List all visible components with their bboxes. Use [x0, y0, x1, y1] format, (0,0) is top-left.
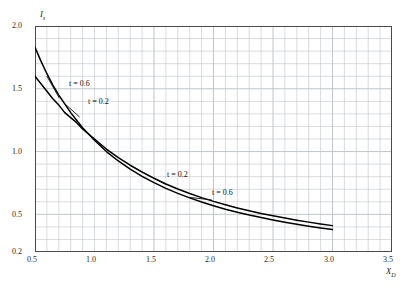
y-axis-title-sub: s [43, 15, 45, 21]
y-tick-2: 1.0 [12, 147, 22, 156]
x-tick-0: 0.5 [27, 255, 37, 264]
curve-t-0-2 [35, 76, 333, 225]
chart-figure: 0.51.01.52.02.53.03.5 2.01.51.00.50.2 Is… [0, 0, 419, 289]
annotation-t02-lower: t = 0.2 [167, 170, 188, 179]
plot-area [35, 26, 392, 252]
x-axis-title: XD [386, 266, 396, 278]
curve-t-0-6 [35, 47, 333, 229]
x-tick-5: 3.0 [324, 255, 334, 264]
x-tick-1: 1.0 [86, 255, 96, 264]
annotation-leader-lines [47, 76, 212, 200]
annotation-t02-upper: t = 0.2 [88, 97, 109, 106]
x-tick-6: 3.5 [383, 255, 393, 264]
plot-svg [35, 26, 392, 252]
annotation-t06-upper: t = 0.6 [69, 79, 90, 88]
y-axis-title: Is [40, 9, 45, 21]
annotation-t06-lower: t = 0.6 [212, 188, 233, 197]
x-axis-title-sub: D [391, 272, 395, 278]
y-tick-0: 2.0 [12, 21, 22, 30]
x-tick-2: 1.5 [146, 255, 156, 264]
y-tick-3: 0.5 [12, 210, 22, 219]
y-tick-1: 1.5 [12, 84, 22, 93]
x-tick-3: 2.0 [205, 255, 215, 264]
y-tick-4: 0.2 [12, 247, 22, 256]
x-tick-4: 2.5 [264, 255, 274, 264]
